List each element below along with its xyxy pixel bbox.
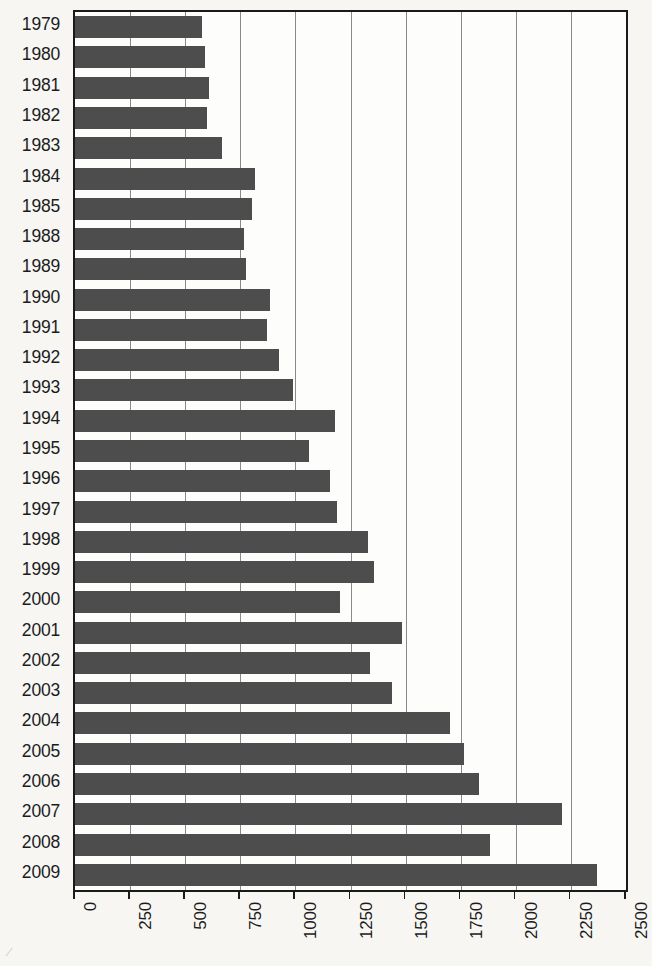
x-axis-tick-mark	[349, 890, 351, 899]
y-axis-tick-label: 1983	[0, 137, 60, 155]
bar-row	[75, 228, 244, 250]
bar	[75, 168, 255, 190]
y-axis-tick-label: 1979	[0, 16, 60, 34]
x-axis-tick-label: 2500	[632, 902, 652, 939]
x-axis-tick-label: 1000	[301, 902, 321, 939]
bar	[75, 319, 267, 341]
y-axis-tick-label: 1998	[0, 531, 60, 549]
y-axis-tick-label: 1999	[0, 561, 60, 579]
bar-row	[75, 137, 222, 159]
x-axis-tick-label: 1500	[412, 902, 432, 939]
y-axis-tick-label: 2006	[0, 773, 60, 791]
x-axis-tick-mark	[624, 890, 626, 899]
x-axis-tick-mark	[459, 890, 461, 899]
y-axis-tick-label: 1990	[0, 289, 60, 307]
y-axis-tick-label: 2002	[0, 652, 60, 670]
bar-row	[75, 864, 597, 886]
y-axis-tick-label: 1994	[0, 410, 60, 428]
y-axis-tick-label: 2008	[0, 834, 60, 852]
y-axis-tick-label: 1993	[0, 379, 60, 397]
x-axis-tick-label: 750	[246, 902, 266, 930]
bar-row	[75, 712, 450, 734]
bar-row	[75, 379, 293, 401]
bar	[75, 137, 222, 159]
bar	[75, 410, 335, 432]
bar	[75, 834, 490, 856]
bar	[75, 289, 270, 311]
y-axis-year-labels: 1979198019811982198319841985198819891990…	[0, 10, 64, 888]
bar-row	[75, 773, 479, 795]
bar	[75, 77, 209, 99]
x-axis: 02505007501000125015001750200022502500	[73, 890, 626, 966]
y-axis-tick-label: 1980	[0, 46, 60, 64]
y-axis-tick-label: 2007	[0, 803, 60, 821]
bar	[75, 228, 244, 250]
x-axis-tick-label: 1250	[357, 902, 377, 939]
bar	[75, 46, 205, 68]
x-axis-tick-mark	[128, 890, 130, 899]
y-axis-tick-label: 1992	[0, 349, 60, 367]
bar	[75, 470, 330, 492]
bar-row	[75, 168, 255, 190]
x-axis-tick-label: 0	[81, 902, 101, 911]
bar-row	[75, 561, 374, 583]
bar-row	[75, 652, 370, 674]
y-axis-tick-label: 2005	[0, 743, 60, 761]
x-axis-tick-label: 500	[191, 902, 211, 930]
y-axis-tick-label: 1981	[0, 77, 60, 95]
bar-row	[75, 470, 330, 492]
bar	[75, 591, 340, 613]
y-axis-tick-label: 1982	[0, 107, 60, 125]
bar-row	[75, 682, 392, 704]
y-axis-tick-label: 1988	[0, 228, 60, 246]
x-axis-tick-mark	[514, 890, 516, 899]
bar	[75, 864, 597, 886]
bar-row	[75, 743, 464, 765]
y-axis-tick-label: 1989	[0, 258, 60, 276]
x-axis-tick-mark	[404, 890, 406, 899]
bar	[75, 712, 450, 734]
bar-row	[75, 107, 207, 129]
y-axis-tick-label: 2000	[0, 591, 60, 609]
y-axis-tick-label: 1991	[0, 319, 60, 337]
y-axis-tick-label: 2003	[0, 682, 60, 700]
bar	[75, 803, 562, 825]
x-axis-tick-mark	[238, 890, 240, 899]
x-axis-tick-mark	[293, 890, 295, 899]
x-axis-tick-mark	[73, 890, 75, 899]
bar-row	[75, 77, 209, 99]
bar-row	[75, 319, 267, 341]
bar	[75, 773, 479, 795]
bar-row	[75, 410, 335, 432]
bar-row	[75, 531, 368, 553]
bar-row	[75, 501, 337, 523]
x-axis-tick-mark	[183, 890, 185, 899]
bar-row	[75, 622, 402, 644]
bar	[75, 743, 464, 765]
bar-row	[75, 591, 340, 613]
y-axis-tick-label: 2009	[0, 864, 60, 882]
bar-row	[75, 349, 279, 371]
y-axis-tick-label: 1995	[0, 440, 60, 458]
y-axis-tick-label: 1985	[0, 198, 60, 216]
bar	[75, 440, 309, 462]
bar	[75, 198, 252, 220]
bar-row	[75, 440, 309, 462]
bar	[75, 258, 246, 280]
bar	[75, 561, 374, 583]
bar-row	[75, 46, 205, 68]
bar-row	[75, 198, 252, 220]
bar	[75, 652, 370, 674]
x-axis-tick-label: 2250	[577, 902, 597, 939]
plot-area	[73, 10, 628, 892]
bar	[75, 349, 279, 371]
gridline	[571, 12, 572, 890]
bar-row	[75, 16, 202, 38]
bar	[75, 379, 293, 401]
bar	[75, 107, 207, 129]
bar	[75, 531, 368, 553]
bar-row	[75, 258, 246, 280]
y-axis-tick-label: 2001	[0, 622, 60, 640]
gridline	[516, 12, 517, 890]
bar	[75, 622, 402, 644]
